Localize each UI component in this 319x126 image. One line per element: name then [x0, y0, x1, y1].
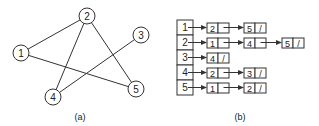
- vertex-label: 2: [182, 37, 188, 48]
- undirected-graph: 12345: [13, 8, 149, 105]
- figure: 12345 (a) 125/2145/34/423/512/ (b): [0, 0, 319, 126]
- graph-node: 5: [128, 81, 144, 97]
- node-label: 2: [84, 11, 90, 22]
- adjacency-row: 2145/: [177, 35, 304, 50]
- svg-text:1: 1: [210, 39, 215, 49]
- node-label: 1: [18, 48, 24, 59]
- svg-text:2: 2: [210, 69, 215, 79]
- svg-text:5: 5: [285, 39, 290, 49]
- svg-text:1: 1: [210, 84, 215, 94]
- vertex-label: 5: [182, 82, 188, 93]
- node-label: 4: [50, 92, 56, 103]
- adjacency-row: 512/: [177, 80, 266, 95]
- node-label: 5: [133, 84, 139, 95]
- graph-node: 2: [79, 8, 95, 24]
- graph-node: 3: [133, 27, 149, 43]
- graph-edge: [87, 16, 136, 89]
- svg-text:5: 5: [247, 24, 252, 34]
- node-label: 3: [138, 30, 144, 41]
- adjacency-row: 34/: [177, 50, 229, 65]
- graph-node: 1: [13, 45, 29, 61]
- vertex-label: 4: [182, 67, 188, 78]
- svg-text:2: 2: [247, 84, 252, 94]
- graph-node: 4: [45, 89, 61, 105]
- graph-edge: [21, 53, 136, 89]
- vertex-label: 1: [182, 22, 188, 33]
- adjacency-list: 125/2145/34/423/512/: [177, 20, 304, 95]
- svg-text:4: 4: [247, 39, 252, 49]
- graph-caption: (a): [75, 112, 86, 122]
- svg-text:4: 4: [210, 54, 215, 64]
- graph-edge: [21, 16, 87, 53]
- adjacency-row: 423/: [177, 65, 266, 80]
- vertex-label: 3: [182, 52, 188, 63]
- adjacency-list-caption: (b): [235, 112, 246, 122]
- adjacency-row: 125/: [177, 20, 266, 35]
- svg-text:3: 3: [247, 69, 252, 79]
- svg-text:2: 2: [210, 24, 215, 34]
